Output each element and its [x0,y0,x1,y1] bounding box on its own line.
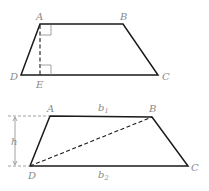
label-d-2: D [27,170,36,181]
right-angle-mark-a [40,25,51,35]
label-b2: b2 [98,169,109,182]
right-angle-mark-e [40,65,51,75]
figure-2-trapezoid-diagonal: h A B C D b1 b2 [8,102,199,182]
trapezoid-abcd [21,24,158,75]
label-c-2: C [191,162,199,173]
figure-1-trapezoid-altitude: A B C D E [9,11,170,90]
label-b-2: B [148,103,156,114]
label-e: E [35,79,44,90]
label-d: D [9,71,18,82]
label-b1: b1 [98,102,109,115]
trapezoid-abcd-2 [30,116,188,166]
label-a: A [35,11,43,22]
label-b1-sub: 1 [104,107,108,115]
label-b2-sub: 2 [103,174,108,182]
label-a-2: A [46,103,54,114]
label-h: h [11,136,17,147]
label-c: C [162,71,170,82]
diagonal-db [30,117,152,166]
trapezoid-diagrams: A B C D E h A B C D b1 b2 [0,0,209,191]
label-b: B [119,11,127,22]
